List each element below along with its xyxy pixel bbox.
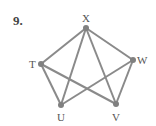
vertex-U xyxy=(58,102,64,108)
edge-W-U xyxy=(61,60,133,105)
vertex-V xyxy=(113,101,119,107)
vertex-T xyxy=(38,61,44,67)
vertex-X xyxy=(83,25,89,31)
edge-W-V xyxy=(116,60,133,104)
vertex-label-W: W xyxy=(137,54,148,66)
edge-T-V xyxy=(41,64,116,104)
vertex-label-V: V xyxy=(112,111,120,123)
vertex-label-U: U xyxy=(57,111,65,123)
vertex-W xyxy=(130,57,136,63)
vertex-label-X: X xyxy=(82,12,90,24)
edge-X-U xyxy=(61,28,86,105)
graph-diagram: XTWUV xyxy=(0,0,156,126)
vertex-label-T: T xyxy=(29,58,36,70)
